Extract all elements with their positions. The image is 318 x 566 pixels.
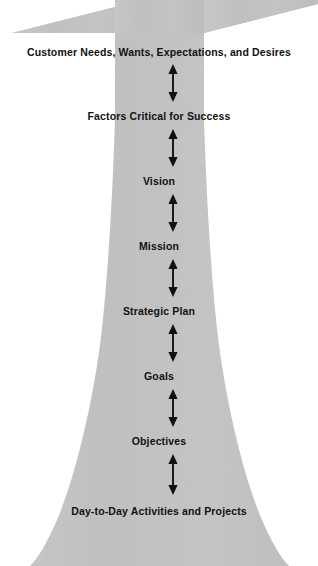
level-label-customer-needs: Customer Needs, Wants, Expectations, and…	[0, 46, 318, 58]
level-label-factors-critical-for-success: Factors Critical for Success	[0, 110, 318, 122]
level-label-objectives: Objectives	[0, 435, 318, 447]
level-label-strategic-plan: Strategic Plan	[0, 305, 318, 317]
level-label-goals: Goals	[0, 370, 318, 382]
level-label-mission: Mission	[0, 240, 318, 252]
level-label-vision: Vision	[0, 175, 318, 187]
diagram-overlay: Customer Needs, Wants, Expectations, and…	[0, 0, 318, 566]
diagram-canvas: Customer Needs, Wants, Expectations, and…	[0, 0, 318, 566]
level-label-day-to-day-activities: Day-to-Day Activities and Projects	[0, 505, 318, 517]
